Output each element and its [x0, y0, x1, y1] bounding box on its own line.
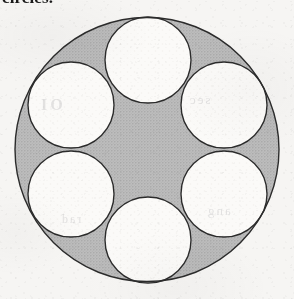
six-circles-figure: [0, 0, 294, 299]
clipped-caption-text: circles.: [2, 0, 53, 8]
clipped-caption: circles.: [0, 0, 294, 11]
scanned-page: OI sec ang rad circles.: [0, 0, 294, 299]
